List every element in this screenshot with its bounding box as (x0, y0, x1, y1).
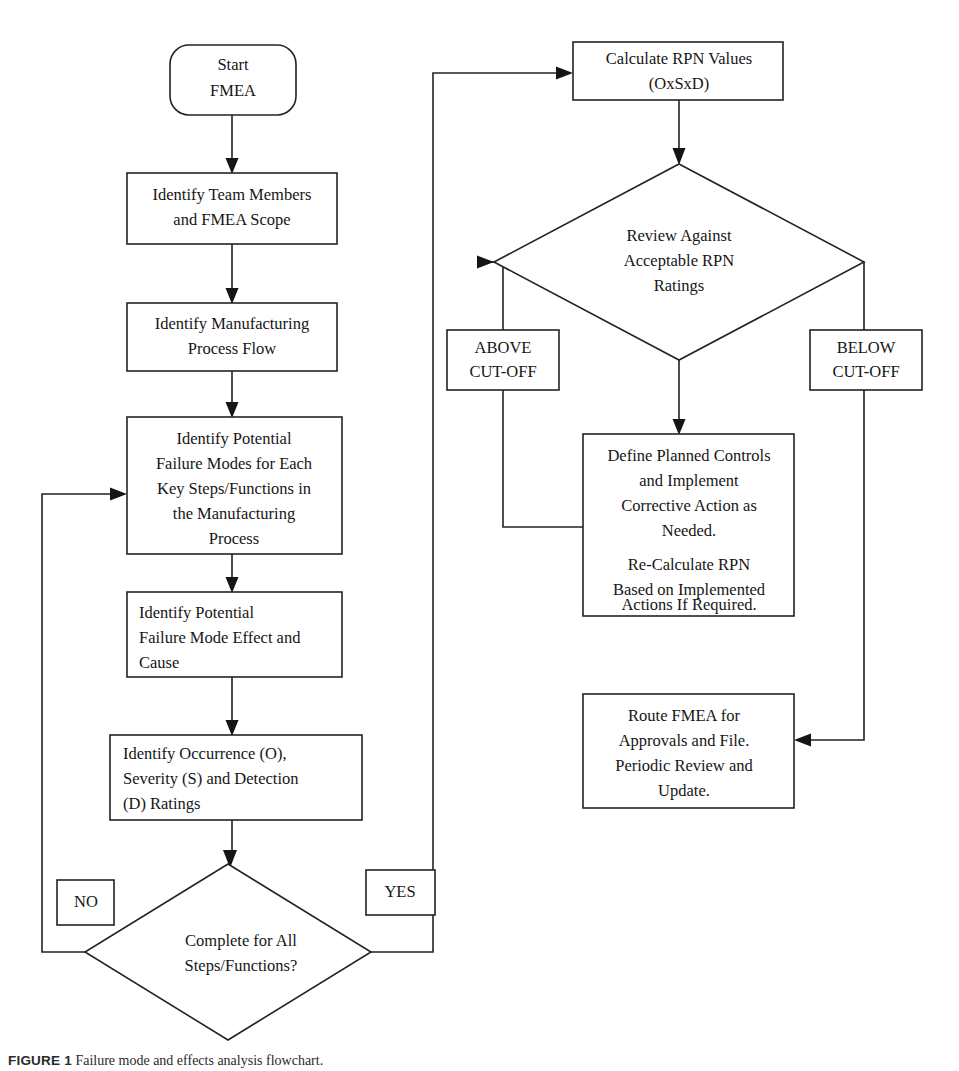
below-cutoff-line-1: BELOW (837, 338, 896, 357)
review-decision-line-2: Acceptable RPN (624, 251, 735, 270)
route-fmea-line-2: Approvals and File. (619, 731, 750, 750)
route-fmea-line-3: Periodic Review and (615, 756, 753, 775)
label-above-cutoff: ABOVE CUT-OFF (447, 330, 559, 390)
figure-caption-label: FIGURE 1 (8, 1053, 72, 1068)
above-cutoff-line-1: ABOVE (475, 338, 532, 357)
node-identify-failure-modes[interactable]: Identify Potential Failure Modes for Eac… (127, 417, 342, 554)
arrowhead-process-flow (226, 288, 239, 304)
arrowhead-above-cutoff-feedback (477, 256, 494, 269)
identify-team-members-line-1: Identify Team Members (153, 185, 312, 204)
define-controls-line-4: Needed. (662, 521, 717, 540)
identify-failure-modes-line-1: Identify Potential (176, 429, 291, 448)
node-define-controls[interactable]: Define Planned Controls and Implement Co… (583, 434, 794, 616)
no-label-text: NO (74, 892, 98, 911)
arrowhead-review-decision (673, 148, 686, 165)
arrowhead-route-fmea (794, 734, 811, 747)
above-cutoff-line-2: CUT-OFF (469, 362, 536, 381)
identify-process-flow-line-1: Identify Manufacturing (155, 314, 309, 333)
identify-effect-cause-line-2: Failure Mode Effect and (139, 628, 301, 647)
identify-effect-cause-line-3: Cause (139, 653, 179, 672)
identify-failure-modes-line-4: the Manufacturing (173, 504, 295, 523)
review-decision-line-3: Ratings (654, 276, 704, 295)
arrowhead-define-controls (673, 419, 686, 435)
edge-yes-to-calculate-rpn (371, 73, 563, 952)
calculate-rpn-line-1: Calculate RPN Values (606, 49, 752, 68)
identify-effect-cause-line-1: Identify Potential (139, 603, 254, 622)
node-identify-effect-cause[interactable]: Identify Potential Failure Mode Effect a… (127, 592, 342, 677)
complete-decision-shape (85, 864, 371, 1040)
complete-decision-line-1: Complete for All (185, 931, 297, 950)
node-start-fmea[interactable]: Start FMEA (170, 45, 296, 115)
define-controls-line-6: Re-Calculate RPN (628, 555, 750, 574)
review-decision-line-1: Review Against (627, 226, 732, 245)
below-cutoff-line-2: CUT-OFF (832, 362, 899, 381)
arrowhead-no-feedback (110, 488, 127, 501)
arrowhead-calculate-rpn (556, 67, 573, 80)
yes-label-text: YES (384, 882, 415, 901)
start-fmea-line-2: FMEA (210, 81, 256, 100)
define-controls-line-2: and Implement (639, 471, 739, 490)
define-controls-line-3: Corrective Action as (621, 496, 757, 515)
identify-team-members-line-2: and FMEA Scope (173, 210, 290, 229)
define-controls-line-8: Actions If Required. (621, 595, 756, 614)
start-fmea-line-1: Start (217, 55, 249, 74)
label-no: NO (57, 880, 114, 925)
arrowhead-ratings (226, 720, 239, 736)
node-complete-decision[interactable]: Complete for All Steps/Functions? (85, 864, 371, 1040)
label-yes: YES (366, 870, 435, 915)
label-below-cutoff: BELOW CUT-OFF (810, 330, 922, 390)
identify-process-flow-line-2: Process Flow (188, 339, 277, 358)
node-calculate-rpn[interactable]: Calculate RPN Values (OxSxD) (573, 42, 783, 100)
node-identify-osd-ratings[interactable]: Identify Occurrence (O), Severity (S) an… (110, 735, 362, 820)
identify-osd-ratings-line-2: Severity (S) and Detection (123, 769, 299, 788)
identify-osd-ratings-line-1: Identify Occurrence (O), (123, 744, 287, 763)
identify-failure-modes-line-5: Process (209, 529, 259, 548)
node-route-fmea[interactable]: Route FMEA for Approvals and File. Perio… (583, 694, 794, 808)
flowchart-canvas: Start FMEA Identify Team Members and FME… (0, 0, 959, 1071)
identify-failure-modes-line-2: Failure Modes for Each (156, 454, 313, 473)
identify-team-members-shape (127, 173, 337, 244)
fmea-flowchart-figure: Start FMEA Identify Team Members and FME… (0, 0, 959, 1071)
identify-osd-ratings-line-3: (D) Ratings (123, 794, 200, 813)
route-fmea-line-1: Route FMEA for (628, 706, 740, 725)
figure-caption-text: Failure mode and effects analysis flowch… (75, 1053, 323, 1068)
arrowhead-effect-cause (226, 577, 239, 593)
identify-failure-modes-line-3: Key Steps/Functions in (157, 479, 311, 498)
define-controls-line-1: Define Planned Controls (607, 446, 770, 465)
node-identify-team-members[interactable]: Identify Team Members and FMEA Scope (127, 173, 337, 244)
arrowhead-team (226, 158, 239, 174)
complete-decision-line-2: Steps/Functions? (185, 956, 298, 975)
calculate-rpn-line-2: (OxSxD) (649, 74, 710, 93)
figure-caption: FIGURE 1 Failure mode and effects analys… (8, 1053, 323, 1069)
node-identify-process-flow[interactable]: Identify Manufacturing Process Flow (127, 303, 337, 371)
arrowhead-failure-modes (226, 402, 239, 418)
route-fmea-line-4: Update. (658, 781, 710, 800)
